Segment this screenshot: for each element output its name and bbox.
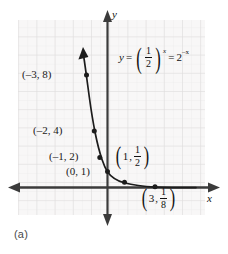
- fraction-numerator: 1: [134, 145, 141, 155]
- equation-equals: =: [126, 52, 132, 63]
- left-paren-icon: (: [136, 47, 142, 69]
- coord-y-fraction: 1 8: [160, 187, 167, 210]
- point-label-3-one-eighth: ( 3 , 1 8 ): [140, 187, 177, 210]
- data-point: [97, 155, 102, 160]
- right-paren-icon: ): [170, 188, 175, 208]
- equation-annotation: y = ( 1 2 ) x = 2 –x: [119, 46, 189, 69]
- fraction-numerator: 1: [145, 46, 152, 56]
- point-label-neg2-4: (–2, 4): [33, 125, 62, 136]
- equation-exponent: x: [163, 48, 166, 55]
- data-point: [84, 73, 89, 78]
- data-point: [105, 169, 110, 174]
- equation-equals-2: =: [168, 52, 174, 63]
- exponential-decay-figure: y = ( 1 2 ) x = 2 –x (–3, 8) (–2, 4) (–1…: [0, 0, 228, 254]
- coord-comma: ,: [129, 151, 132, 162]
- equation-rhs-exponent: –x: [182, 49, 189, 56]
- right-paren-icon: ): [144, 146, 149, 166]
- coord-y-fraction: 1 2: [134, 145, 141, 168]
- x-axis-label: x: [207, 192, 212, 204]
- left-paren-icon: (: [116, 146, 121, 166]
- data-point: [122, 180, 127, 185]
- right-paren-icon: ): [155, 47, 161, 69]
- point-label-1-one-half: ( 1 , 1 2 ): [114, 145, 151, 168]
- point-label-0-1: (0, 1): [66, 166, 90, 177]
- coord-x: 3: [149, 193, 155, 204]
- fraction-numerator: 1: [160, 187, 167, 197]
- left-paren-icon: (: [142, 188, 147, 208]
- fraction-denominator: 2: [145, 59, 152, 69]
- point-label-neg3-8: (–3, 8): [22, 69, 51, 80]
- equation-lhs: y: [119, 52, 124, 63]
- data-point: [92, 129, 97, 134]
- equation-base-fraction: 1 2: [145, 46, 152, 69]
- y-axis-label: y: [112, 8, 117, 20]
- coord-x: 1: [123, 151, 129, 162]
- point-label-neg1-2: (–1, 2): [49, 151, 78, 162]
- coord-comma: ,: [155, 193, 158, 204]
- fraction-denominator: 2: [134, 158, 141, 168]
- figure-caption: (a): [14, 228, 28, 240]
- fraction-denominator: 8: [160, 200, 167, 210]
